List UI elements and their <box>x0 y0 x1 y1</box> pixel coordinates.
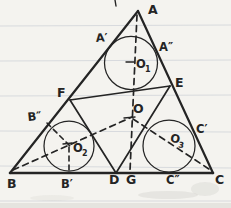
center-tick-o <box>124 117 135 118</box>
bottom-shadow <box>0 203 231 208</box>
geometry-figure: A B C A′ A″ B″ B′ C′ C″ F E D G O O 1 O … <box>0 0 231 208</box>
ruled-line <box>0 166 231 168</box>
label-o3-sub: 3 <box>178 140 185 150</box>
label-a-prime: A′ <box>95 30 108 45</box>
smudge <box>138 191 198 199</box>
label-point-f: F <box>57 85 66 100</box>
incircle-o3 <box>143 120 195 172</box>
label-c-double-prime: C″ <box>166 173 180 187</box>
label-a-double-prime: A″ <box>159 40 173 54</box>
label-c-prime: C′ <box>196 122 207 136</box>
label-vertex-a: A <box>148 2 158 17</box>
segment-fe <box>70 86 170 100</box>
inscribed-circles <box>44 37 195 173</box>
label-center-o3: O 3 <box>169 131 186 150</box>
label-b-double-prime: B″ <box>27 109 42 124</box>
label-point-g: G <box>126 172 136 187</box>
dashed-a-to-g <box>130 15 137 171</box>
label-vertex-c: C <box>215 172 224 187</box>
label-point-o: O <box>133 101 144 116</box>
medial-triangle-fed <box>70 86 170 173</box>
label-o2-sub: 2 <box>82 149 88 158</box>
ruled-line <box>0 95 231 96</box>
smudge <box>30 195 74 201</box>
ruled-line <box>0 60 231 61</box>
notebook-photo: A B C A′ A″ B″ B′ C′ C″ F E D G O O 1 O … <box>0 0 231 208</box>
label-o1-sub: 1 <box>145 65 151 74</box>
labels: A B C A′ A″ B″ B′ C′ C″ F E D G O O 1 O … <box>7 2 224 191</box>
dashed-bpp-to-o2 <box>47 123 70 146</box>
label-point-e: E <box>175 75 184 90</box>
incircle-o1 <box>105 37 158 90</box>
segment-de <box>116 86 170 173</box>
label-b-prime: B′ <box>61 177 73 191</box>
label-center-o1: O 1 <box>136 57 151 74</box>
pen-tick-top <box>115 0 116 6</box>
label-center-o2: O 2 <box>73 141 88 158</box>
side-ac <box>138 11 213 173</box>
segment-fd <box>70 100 116 173</box>
label-point-d: D <box>109 172 119 187</box>
label-vertex-b: B <box>7 176 17 191</box>
center-tick-o2 <box>63 143 72 144</box>
ruled-line <box>0 25 231 26</box>
